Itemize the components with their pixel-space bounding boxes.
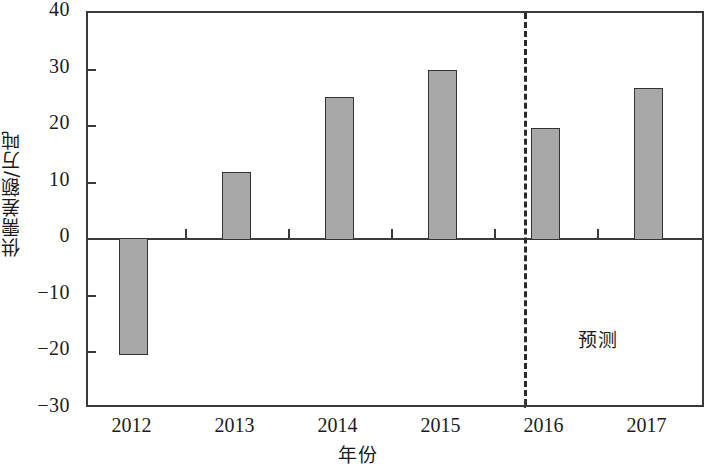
y-tick-label--30: −30	[37, 394, 70, 417]
x-tick-boundary-2	[288, 229, 290, 238]
x-tick-label-2015: 2015	[421, 414, 461, 437]
bar-chart-figure: 供需差额/万吨 403020100−10−20−30 2012201320142…	[0, 0, 716, 466]
forecast-divider-line	[524, 13, 527, 405]
y-tick--10	[87, 295, 96, 297]
bar-2016	[531, 128, 560, 240]
x-tick-boundary-4	[494, 229, 496, 238]
y-tick-label-40: 40	[49, 0, 70, 21]
y-axis-tick-labels: 403020100−10−20−30	[0, 0, 80, 466]
x-tick-label-2016: 2016	[524, 414, 564, 437]
x-tick-bottom-divider	[524, 399, 526, 408]
y-tick--20	[87, 351, 96, 353]
x-tick-label-2017: 2017	[627, 414, 667, 437]
forecast-annotation: 预测	[578, 325, 618, 352]
x-tick-boundary-5	[597, 229, 599, 238]
bar-2012	[119, 238, 148, 354]
zero-baseline	[88, 238, 702, 240]
y-tick-30	[87, 69, 96, 71]
bar-2014	[325, 97, 354, 240]
x-tick-label-2012: 2012	[112, 414, 152, 437]
y-tick-label-20: 20	[49, 111, 70, 134]
bar-2017	[634, 88, 663, 240]
y-tick-label-0: 0	[60, 224, 71, 247]
x-tick-boundary-3	[391, 229, 393, 238]
y-tick-label-30: 30	[49, 55, 70, 78]
x-tick-label-2014: 2014	[318, 414, 358, 437]
x-tick-boundary-1	[185, 229, 187, 238]
y-tick-label-10: 10	[49, 168, 70, 191]
y-tick-10	[87, 182, 96, 184]
bar-2013	[222, 172, 251, 241]
x-axis-title: 年份	[0, 440, 716, 466]
y-tick-20	[87, 125, 96, 127]
y-tick-label--20: −20	[37, 337, 70, 360]
bar-2015	[428, 70, 457, 240]
y-tick-label--10: −10	[37, 281, 70, 304]
x-tick-label-2013: 2013	[215, 414, 255, 437]
